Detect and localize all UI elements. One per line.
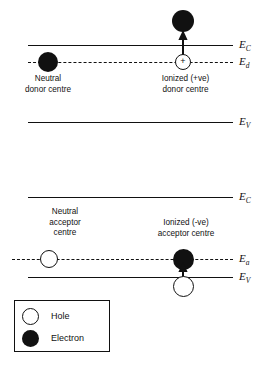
legend-item-electron: Electron xyxy=(22,330,84,347)
energy-label-ed-text: E xyxy=(239,55,246,67)
energy-label-ea: Ea xyxy=(239,253,249,267)
energy-label-ec-lower-text: E xyxy=(239,190,246,202)
energy-label-ev-upper: EV xyxy=(239,116,250,130)
conduction-band-line-upper xyxy=(28,45,233,46)
electron-in-conduction-band xyxy=(172,10,194,32)
neutral-donor-caption: Neutral donor centre xyxy=(3,74,93,95)
neutral-acceptor-caption-line2: acceptor xyxy=(25,218,105,229)
energy-label-ev-lower: EV xyxy=(239,271,250,285)
electron-icon xyxy=(22,330,39,347)
energy-label-ec-upper-text: E xyxy=(239,38,246,50)
energy-label-ec-lower-sub: C xyxy=(246,196,251,205)
neutral-acceptor-core xyxy=(40,250,58,268)
valence-band-line-lower xyxy=(28,277,233,278)
conduction-band-line-lower xyxy=(28,197,233,198)
neutral-donor-caption-line2: donor centre xyxy=(3,85,93,96)
ionized-donor-caption-line2: donor centre xyxy=(138,85,233,96)
donor-level-line xyxy=(28,62,233,63)
ionized-acceptor-caption-line2: acceptor centre xyxy=(136,229,236,240)
band-diagram-figure: EC Ed + Neutral donor centre Ionized (+v… xyxy=(0,0,263,369)
energy-label-ed: Ed xyxy=(239,56,249,70)
neutral-acceptor-caption-line3: centre xyxy=(25,228,105,239)
legend-item-hole: Hole xyxy=(22,308,70,325)
energy-label-ec-lower: EC xyxy=(239,191,251,205)
ionized-acceptor-caption: Ionized (-ve) acceptor centre xyxy=(136,218,236,239)
energy-label-ev-upper-text: E xyxy=(239,115,246,127)
legend-label-electron: Electron xyxy=(51,334,84,343)
hole-icon xyxy=(22,308,39,325)
valence-band-line-upper xyxy=(28,122,233,123)
energy-label-ed-sub: d xyxy=(246,61,250,70)
ionized-donor-caption-line1: Ionized (+ve) xyxy=(138,74,233,85)
energy-label-ec-upper: EC xyxy=(239,39,251,53)
ionized-donor-caption: Ionized (+ve) donor centre xyxy=(138,74,233,95)
neutral-acceptor-caption-line1: Neutral xyxy=(25,207,105,218)
energy-label-ea-text: E xyxy=(239,252,246,264)
energy-label-ev-upper-sub: V xyxy=(246,121,251,130)
hole-in-valence-band xyxy=(173,276,194,297)
ionized-donor-plus-sign: + xyxy=(175,57,191,66)
neutral-donor-electron xyxy=(38,52,58,72)
legend-label-hole: Hole xyxy=(51,312,70,321)
ionized-acceptor-caption-line1: Ionized (-ve) xyxy=(136,218,236,229)
energy-label-ev-lower-text: E xyxy=(239,270,246,282)
energy-label-ea-sub: a xyxy=(246,258,250,267)
energy-label-ev-lower-sub: V xyxy=(246,276,251,285)
neutral-acceptor-caption: Neutral acceptor centre xyxy=(25,207,105,239)
neutral-donor-caption-line1: Neutral xyxy=(3,74,93,85)
energy-label-ec-upper-sub: C xyxy=(246,44,251,53)
